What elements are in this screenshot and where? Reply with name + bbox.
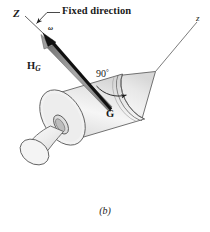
- figure-caption: (b): [0, 206, 210, 216]
- label-HG-main: H: [27, 60, 35, 71]
- fixed-direction-leader: [37, 13, 61, 24]
- label-omega: ω: [48, 25, 53, 32]
- figure-canvas: [0, 0, 210, 232]
- label-angular-momentum-HG: HG: [27, 61, 41, 73]
- label-HG-subscript: G: [35, 64, 40, 73]
- label-fixed-direction: Fixed direction: [62, 6, 131, 17]
- rocket-precession-figure: Z z Fixed direction ω HG 90° G (b): [0, 0, 210, 232]
- label-fixed-axis-Z: Z: [13, 8, 20, 19]
- label-angle-value: 90: [96, 68, 106, 79]
- label-angle-90: 90°: [96, 69, 109, 79]
- degree-icon: °: [106, 68, 109, 76]
- body-axis-z-line: [156, 22, 198, 72]
- label-center-of-mass-G: G: [106, 109, 114, 120]
- label-body-axis-z: z: [196, 14, 200, 23]
